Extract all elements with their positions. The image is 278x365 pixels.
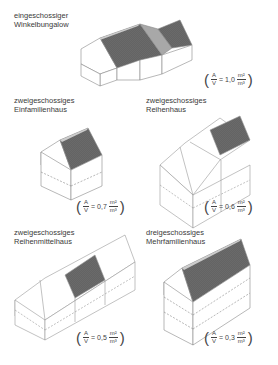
av-fraction: AV bbox=[83, 330, 89, 345]
paren-close: ) bbox=[120, 199, 125, 214]
title-line-2: Einfamilienhaus bbox=[14, 105, 74, 114]
denominator: V bbox=[212, 207, 216, 214]
house-2-ratio: ( AV = 0,7 m²m³ ) bbox=[76, 199, 125, 214]
paren-open: ( bbox=[204, 330, 209, 345]
denominator: V bbox=[212, 80, 216, 87]
unit-fraction: m²m³ bbox=[237, 72, 246, 87]
equals: = bbox=[219, 76, 223, 83]
house-1-title: eingeschossiger Winkelbungalow bbox=[14, 11, 69, 29]
numerator: A bbox=[211, 199, 217, 207]
title-line-1: zweigeschossiges bbox=[146, 96, 206, 105]
av-fraction: AV bbox=[211, 72, 217, 87]
title-line-1: dreigeschossiges bbox=[146, 228, 205, 237]
unit-fraction: m²m³ bbox=[109, 330, 118, 345]
winkelbungalow-drawing bbox=[81, 20, 192, 86]
unit-fraction: m²m³ bbox=[237, 330, 246, 345]
unit-fraction: m²m³ bbox=[237, 199, 246, 214]
unit-denominator: m³ bbox=[238, 80, 245, 87]
paren-open: ( bbox=[204, 199, 209, 214]
ratio-value: 1,0 bbox=[225, 76, 235, 83]
title-line-2: Winkelbungalow bbox=[14, 20, 69, 29]
unit-denominator: m³ bbox=[238, 338, 245, 345]
unit-fraction: m²m³ bbox=[109, 199, 118, 214]
paren-close: ) bbox=[120, 330, 125, 345]
av-fraction: AV bbox=[83, 199, 89, 214]
unit-denominator: m³ bbox=[110, 338, 117, 345]
equals: = bbox=[219, 334, 223, 341]
house-illustrations bbox=[0, 0, 278, 365]
unit-numerator: m² bbox=[109, 330, 118, 338]
numerator: A bbox=[211, 72, 217, 80]
unit-numerator: m² bbox=[237, 330, 246, 338]
av-fraction: AV bbox=[211, 330, 217, 345]
title-line-1: zweigeschossiges bbox=[14, 96, 74, 105]
house-1-ratio: ( AV = 1,0 m²m³ ) bbox=[204, 72, 253, 87]
av-fraction: AV bbox=[211, 199, 217, 214]
house-4-ratio: ( AV = 0,5 m²m³ ) bbox=[76, 330, 125, 345]
numerator: A bbox=[83, 330, 89, 338]
house-5-title: dreigeschossiges Mehrfamilienhaus bbox=[146, 228, 205, 246]
reihenmittelhaus-drawing bbox=[15, 235, 135, 340]
ratio-value: 0,5 bbox=[97, 334, 107, 341]
paren-close: ) bbox=[248, 199, 253, 214]
unit-denominator: m³ bbox=[238, 207, 245, 214]
numerator: A bbox=[83, 199, 89, 207]
house-3-title: zweigeschossiges Reihenhaus bbox=[146, 96, 206, 114]
title-line-2: Reihenmittelhaus bbox=[14, 237, 74, 246]
ratio-value: 0,3 bbox=[225, 334, 235, 341]
denominator: V bbox=[212, 338, 216, 345]
equals: = bbox=[91, 334, 95, 341]
einfamilienhaus-drawing bbox=[41, 128, 102, 200]
title-line-1: eingeschossiger bbox=[14, 11, 69, 20]
unit-numerator: m² bbox=[237, 72, 246, 80]
paren-open: ( bbox=[204, 72, 209, 87]
title-line-2: Mehrfamilienhaus bbox=[146, 237, 205, 246]
paren-open: ( bbox=[76, 330, 81, 345]
ratio-value: 0,7 bbox=[97, 203, 107, 210]
unit-denominator: m³ bbox=[110, 207, 117, 214]
denominator: V bbox=[84, 338, 88, 345]
title-line-1: zweigeschossiges bbox=[14, 228, 74, 237]
house-4-title: zweigeschossiges Reihenmittelhaus bbox=[14, 228, 74, 246]
house-3-ratio: ( AV = 0,6 m²m³ ) bbox=[204, 199, 253, 214]
ratio-value: 0,6 bbox=[225, 203, 235, 210]
numerator: A bbox=[211, 330, 217, 338]
title-line-2: Reihenhaus bbox=[146, 105, 206, 114]
unit-numerator: m² bbox=[109, 199, 118, 207]
paren-close: ) bbox=[248, 330, 253, 345]
house-5-ratio: ( AV = 0,3 m²m³ ) bbox=[204, 330, 253, 345]
equals: = bbox=[91, 203, 95, 210]
unit-numerator: m² bbox=[237, 199, 246, 207]
denominator: V bbox=[84, 207, 88, 214]
paren-close: ) bbox=[248, 72, 253, 87]
paren-open: ( bbox=[76, 199, 81, 214]
house-2-title: zweigeschossiges Einfamilienhaus bbox=[14, 96, 74, 114]
equals: = bbox=[219, 203, 223, 210]
